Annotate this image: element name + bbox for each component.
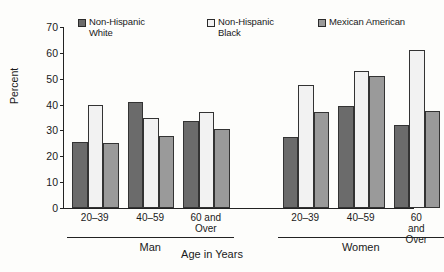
bar	[394, 125, 410, 208]
legend-item-label: Mexican American	[329, 17, 405, 28]
y-tick-label: 10	[46, 176, 58, 188]
y-tick-label: 70	[46, 21, 58, 33]
bar	[143, 118, 159, 209]
y-tick-label: 40	[46, 99, 58, 111]
bar	[338, 106, 354, 208]
y-tick-label: 30	[46, 124, 58, 136]
y-tick-label: 60	[46, 47, 58, 59]
legend-item-mexican-american: Mexican American	[318, 17, 405, 28]
bar	[103, 143, 119, 208]
bar	[88, 105, 104, 208]
y-tick-label: 0	[52, 202, 58, 214]
legend-swatch-icon	[207, 19, 215, 27]
category-label: 60 and Over	[405, 212, 427, 245]
group-label: Women	[342, 241, 380, 253]
bar	[298, 85, 314, 208]
bar	[283, 137, 299, 208]
bar	[72, 142, 88, 208]
bar	[183, 121, 199, 208]
bar	[314, 112, 330, 208]
bar	[409, 50, 425, 208]
plot-area: 010203040506070	[63, 27, 414, 209]
group-label: Man	[140, 241, 161, 253]
bar	[128, 102, 144, 208]
bars-layer	[64, 27, 414, 208]
bar	[159, 136, 175, 208]
y-tick-label: 20	[46, 150, 58, 162]
category-label: 40–59	[347, 212, 375, 223]
category-label: 20–39	[291, 212, 319, 223]
bar	[199, 112, 215, 208]
bar	[214, 129, 230, 208]
legend-swatch-icon	[318, 19, 326, 27]
group-rule	[278, 237, 444, 238]
y-tick-mark	[60, 208, 64, 209]
category-label: 40–59	[136, 212, 164, 223]
category-label: 60 and Over	[190, 212, 221, 234]
bar	[425, 111, 441, 208]
bar	[354, 71, 370, 208]
x-axis-title: Age in Years	[181, 248, 243, 260]
legend-swatch-icon	[78, 19, 86, 27]
y-axis-title: Percent	[8, 68, 20, 104]
category-label: 20–39	[81, 212, 109, 223]
y-tick-label: 50	[46, 73, 58, 85]
bar	[369, 76, 385, 208]
group-rule	[67, 237, 234, 238]
